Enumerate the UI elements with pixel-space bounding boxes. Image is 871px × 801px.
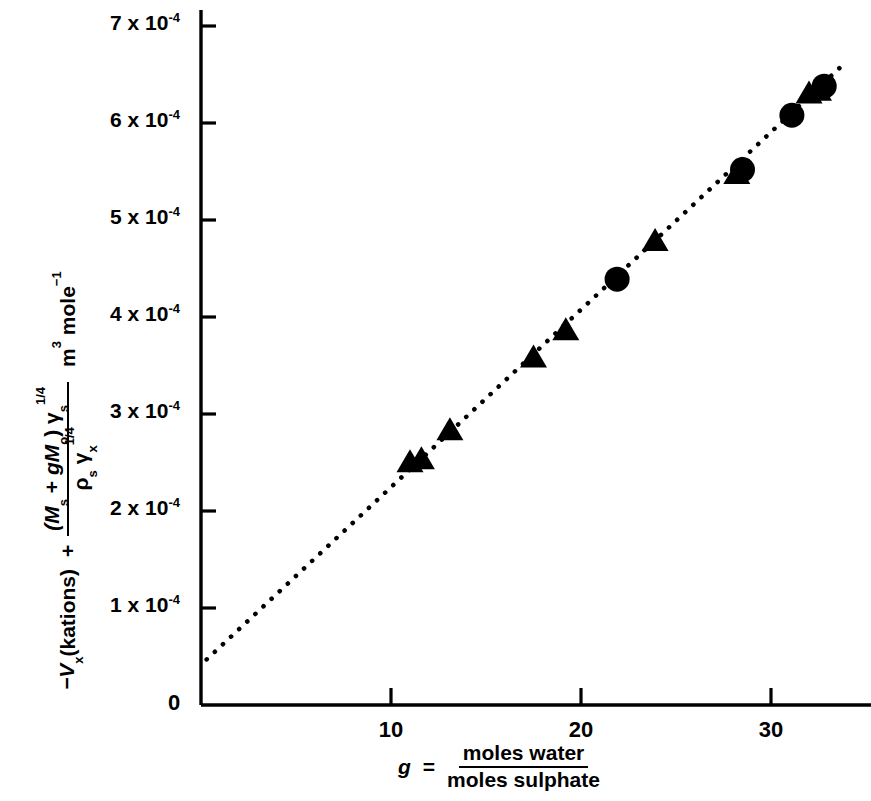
y-label-den-gamma-exponent: 1/4 xyxy=(62,427,77,445)
y-label-fraction: (Ms + gMo) γs1/4 ρsγx1/4 xyxy=(41,382,95,536)
data-point-circle xyxy=(730,157,755,182)
y-label-fraction-denominator: ρsγx1/4 xyxy=(69,422,95,495)
data-point-triangle xyxy=(642,228,669,251)
x-axis-tick-label: 30 xyxy=(731,717,811,743)
y-tick-exponent: -4 xyxy=(168,107,180,122)
y-label-fraction-numerator: (Ms + gMo) γs1/4 xyxy=(41,382,69,536)
x-label-numerator: moles water xyxy=(459,742,588,768)
y-axis-label: −Vx (kations) + (Ms + gMo) γs1/4 ρsγx1/4… xyxy=(0,0,120,720)
y-label-v-subscript: x xyxy=(71,656,86,663)
data-point-circle xyxy=(605,267,630,292)
y-label-plus-sign: + xyxy=(56,545,80,557)
x-label-denominator: moles sulphate xyxy=(443,768,604,792)
y-label-units-mole-exponent: −1 xyxy=(49,271,64,286)
y-label-num-gamma-subscript: s xyxy=(56,405,71,412)
data-markers xyxy=(397,74,837,473)
y-label-units-m: m xyxy=(56,348,79,367)
y-label-minus-v: −Vx xyxy=(55,656,81,690)
y-label-num-open-m: (M xyxy=(40,506,63,531)
y-label-den-gamma-subscript: x xyxy=(85,445,100,452)
x-axis-label: g = moles water moles sulphate xyxy=(201,742,801,800)
y-tick-exponent: -4 xyxy=(168,495,180,510)
y-label-num-gm: gM xyxy=(40,445,63,475)
y-label-kations: (kations) xyxy=(56,569,80,657)
x-axis-tick-label: 10 xyxy=(351,717,431,743)
y-label-den-rho: ρ xyxy=(69,477,92,490)
data-point-triangle xyxy=(552,317,579,340)
y-label-den-gamma: γ xyxy=(69,453,92,465)
y-axis-ticks xyxy=(201,26,216,608)
data-point-circle xyxy=(812,74,837,99)
y-label-units-mole: mole xyxy=(56,286,79,341)
y-label-num-m-subscript: s xyxy=(56,499,71,506)
y-tick-exponent: -4 xyxy=(168,592,180,607)
y-label-units-m-exponent: 3 xyxy=(49,341,64,348)
y-tick-exponent: -4 xyxy=(168,10,180,25)
data-point-circle xyxy=(779,103,804,128)
x-axis-tick-label: 20 xyxy=(541,717,621,743)
x-axis-ticks xyxy=(391,688,771,705)
y-label-num-plus: + xyxy=(40,475,63,499)
y-label-units: m3 mole−1 xyxy=(56,271,80,367)
x-label-fraction: moles water moles sulphate xyxy=(443,742,604,791)
data-point-triangle xyxy=(436,417,463,440)
y-tick-exponent: -4 xyxy=(168,204,180,219)
data-point-triangle xyxy=(520,344,547,367)
y-axis-origin-label: 0 xyxy=(168,690,180,716)
y-tick-exponent: -4 xyxy=(168,301,180,316)
y-label-num-close-gamma: ) γ xyxy=(40,412,63,437)
y-tick-exponent: -4 xyxy=(168,398,180,413)
x-label-equals-sign: = xyxy=(423,755,435,779)
x-label-g-symbol: g xyxy=(398,755,411,779)
y-label-v-symbol: −V xyxy=(55,664,78,690)
y-label-den-rho-subscript: s xyxy=(85,470,100,477)
y-label-num-gamma-exponent: 1/4 xyxy=(33,387,48,405)
figure-container: 1 x 10-42 x 10-43 x 10-44 x 10-45 x 10-4… xyxy=(0,0,871,801)
